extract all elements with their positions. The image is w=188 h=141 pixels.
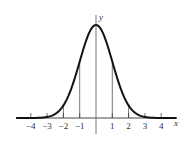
x-tick-label: −4 xyxy=(26,121,36,131)
x-axis-label: x xyxy=(173,118,178,128)
x-tick-label: 2 xyxy=(126,121,131,131)
x-tick-label: 1 xyxy=(110,121,115,131)
y-axis-label: y xyxy=(98,12,103,22)
x-tick-label: −2 xyxy=(59,121,69,131)
bell-curve xyxy=(16,25,177,118)
chart: −4−3−2−11234 x y xyxy=(0,0,188,141)
x-tick-label: −1 xyxy=(75,121,85,131)
x-tick-label: 3 xyxy=(143,121,148,131)
x-tick-label: −3 xyxy=(42,121,52,131)
bell-curve-plot: −4−3−2−11234 x y xyxy=(0,0,188,141)
x-tick-label: 4 xyxy=(159,121,164,131)
